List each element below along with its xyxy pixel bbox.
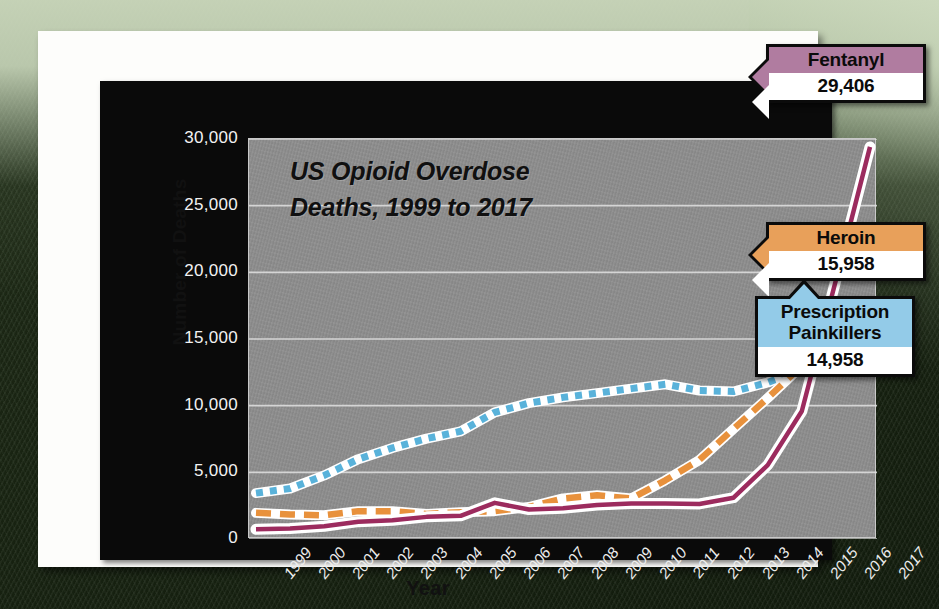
callout-rx-title-line-1: Prescription [768,301,902,322]
callout-prescription-painkillers: Prescription Painkillers 14,958 [755,296,915,377]
y-tick-30000: 30,000 [142,128,238,148]
chart-title: US Opioid Overdose Deaths, 1999 to 2017 [290,153,620,226]
chart-title-line-2: Deaths, 1999 to 2017 [290,189,620,225]
chart-black-panel: Number of Deaths 30,00025,00020,00015,00… [100,81,832,560]
y-tick-5000: 5,000 [142,461,238,481]
y-tick-10000: 10,000 [142,395,238,415]
y-tick-20000: 20,000 [142,261,238,281]
y-tick-15000: 15,000 [142,328,238,348]
callout-rx-value: 14,958 [758,347,912,374]
callout-fentanyl: Fentanyl 29,406 [766,44,926,103]
chart-poster: Year Number of Deaths 30,00025,00020,000… [0,0,939,609]
y-tick-25000: 25,000 [142,195,238,215]
poster-white-frame: Year Number of Deaths 30,00025,00020,000… [38,31,818,567]
callout-heroin-value: 15,958 [769,251,923,278]
callout-fentanyl-title: Fentanyl [769,47,923,73]
y-tick-0: 0 [142,528,238,548]
callout-heroin: Heroin 15,958 [766,222,926,281]
callout-heroin-title: Heroin [769,225,923,251]
callout-rx-notch-head [789,284,819,300]
callout-rx-title: Prescription Painkillers [758,299,912,347]
callout-fentanyl-notch-body [752,85,769,119]
callout-fentanyl-value: 29,406 [769,73,923,100]
callout-heroin-notch-body [752,263,769,297]
callout-rx-title-line-2: Painkillers [768,322,902,343]
chart-title-line-1: US Opioid Overdose [290,153,620,189]
